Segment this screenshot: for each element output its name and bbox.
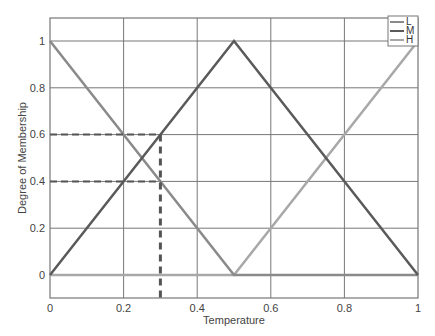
x-tick: 0.6 [263, 302, 278, 314]
x-tick: 0 [47, 302, 53, 314]
y-tick: 0.8 [30, 82, 45, 94]
x-tick: 0.8 [337, 302, 352, 314]
x-tick-labels: 0 0.2 0.4 0.6 0.8 1 [47, 302, 421, 314]
series-h-line [50, 41, 418, 275]
y-tick: 0 [39, 269, 45, 281]
y-tick: 1 [39, 35, 45, 47]
x-tick: 1 [415, 302, 421, 314]
series-l-line [50, 41, 418, 275]
grid [50, 18, 418, 298]
plot-area [50, 18, 418, 298]
x-tick: 0.4 [190, 302, 205, 314]
legend: L M H [388, 16, 418, 46]
x-axis-label: Temperature [203, 314, 265, 326]
membership-chart: 0 0.2 0.4 0.6 0.8 1 0 0.2 0.4 0.6 0.8 1 … [0, 0, 435, 336]
y-axis-label: Degree of Membership [16, 102, 28, 214]
x-tick: 0.2 [116, 302, 131, 314]
y-tick: 0.2 [30, 222, 45, 234]
y-tick: 0.4 [30, 175, 45, 187]
series-m-line [50, 41, 418, 275]
y-tick: 0.6 [30, 128, 45, 140]
legend-label-h: H [406, 34, 413, 45]
y-tick-labels: 0 0.2 0.4 0.6 0.8 1 [30, 35, 45, 281]
